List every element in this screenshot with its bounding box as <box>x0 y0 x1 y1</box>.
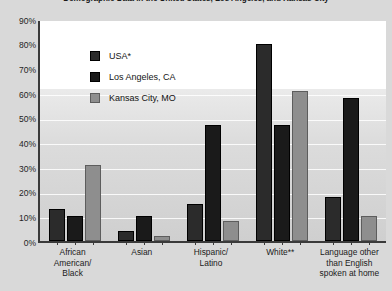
x-axis-category-line: Language other <box>315 247 384 258</box>
legend-swatch-icon <box>90 51 100 61</box>
legend-swatch-icon <box>90 72 100 82</box>
bar <box>343 98 359 241</box>
x-axis-tick <box>333 241 334 245</box>
chart-title: Demographic Data in the United States, L… <box>0 0 392 4</box>
bar <box>223 221 239 241</box>
x-axis-tick <box>126 241 127 245</box>
y-axis-tick-label: 0% <box>2 239 36 248</box>
x-axis-tick <box>300 241 301 245</box>
bar-group <box>248 21 317 241</box>
x-axis-category-label: AfricanAmerican/Black <box>38 247 107 279</box>
plot-area: USA*Los Angeles, CAKansas City, MO <box>38 21 386 243</box>
bar <box>325 197 341 241</box>
x-axis-tick <box>231 241 232 245</box>
x-axis-tick <box>93 241 94 245</box>
bar <box>292 91 308 241</box>
bar <box>118 231 134 241</box>
y-axis: 90%80%70%60%50%40%30%20%10%0% <box>0 21 36 243</box>
x-axis-tick <box>351 241 352 245</box>
x-axis-category-line: than English <box>315 258 384 269</box>
x-axis-category-line: White** <box>246 247 315 258</box>
legend-item: Kansas City, MO <box>90 87 240 108</box>
bar <box>205 125 221 241</box>
x-axis-tick <box>369 241 370 245</box>
y-axis-tick-label: 80% <box>2 41 36 50</box>
legend-label: Los Angeles, CA <box>109 72 176 82</box>
x-axis-tick <box>162 241 163 245</box>
bar-group <box>317 21 386 241</box>
x-axis-category-line: African <box>38 247 107 258</box>
bar <box>274 125 290 241</box>
y-axis-tick-label: 10% <box>2 214 36 223</box>
x-axis-category-line: Hispanic/ <box>176 247 245 258</box>
legend-label: USA* <box>109 51 131 61</box>
y-axis-tick-label: 90% <box>2 17 36 26</box>
x-axis-labels: AfricanAmerican/BlackAsianHispanic/Latin… <box>38 247 386 291</box>
legend-item: Los Angeles, CA <box>90 66 240 87</box>
x-axis-category-line: spoken at home <box>315 268 384 279</box>
x-axis-category-line: Asian <box>107 247 176 258</box>
x-axis-category-label: Asian <box>107 247 176 258</box>
chart-legend: USA*Los Angeles, CAKansas City, MO <box>90 45 240 108</box>
x-axis-tick <box>57 241 58 245</box>
x-axis-category-line: American/ <box>38 258 107 269</box>
x-axis-category-line: Black <box>38 268 107 279</box>
x-axis-category-label: Language otherthan Englishspoken at home <box>315 247 384 279</box>
x-axis-category-label: Hispanic/Latino <box>176 247 245 268</box>
bar <box>361 216 377 241</box>
legend-item: USA* <box>90 45 240 66</box>
x-axis-category-label: White** <box>246 247 315 258</box>
y-axis-tick-label: 20% <box>2 189 36 198</box>
y-axis-tick-label: 60% <box>2 91 36 100</box>
x-axis-tick <box>195 241 196 245</box>
x-axis-tick <box>144 241 145 245</box>
x-axis-tick <box>264 241 265 245</box>
x-axis-category-line: Latino <box>176 258 245 269</box>
y-axis-tick-label: 70% <box>2 66 36 75</box>
bar <box>67 216 83 241</box>
bar <box>85 165 101 241</box>
bar <box>136 216 152 241</box>
y-axis-tick-label: 50% <box>2 115 36 124</box>
bar <box>187 204 203 241</box>
bar <box>256 44 272 241</box>
legend-label: Kansas City, MO <box>109 93 176 103</box>
y-axis-tick-label: 30% <box>2 165 36 174</box>
legend-swatch-icon <box>90 93 100 103</box>
x-axis-tick <box>75 241 76 245</box>
bar <box>49 209 65 241</box>
x-axis-tick <box>213 241 214 245</box>
x-axis-tick <box>282 241 283 245</box>
chart-screenshot: Demographic Data in the United States, L… <box>0 0 392 291</box>
y-axis-tick-label: 40% <box>2 140 36 149</box>
